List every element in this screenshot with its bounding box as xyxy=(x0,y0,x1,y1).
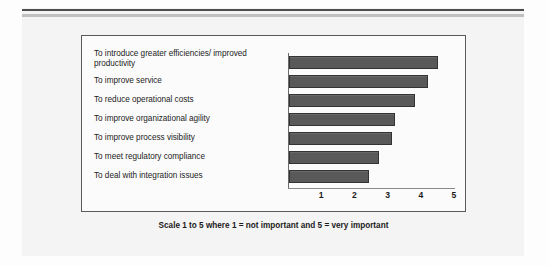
bar xyxy=(289,94,415,107)
bar xyxy=(289,170,369,183)
bar xyxy=(289,151,379,164)
bar-track xyxy=(289,132,455,145)
bar-row: To meet regulatory compliance xyxy=(82,148,467,167)
bar-row: To improve process visibility xyxy=(82,129,467,148)
axis-tick-label: 1 xyxy=(312,190,330,200)
bar xyxy=(289,113,395,126)
bar-rows: To introduce greater efficiencies/ impro… xyxy=(82,53,467,188)
bar-row: To deal with integration issues xyxy=(82,167,467,186)
axis-tick-label: 3 xyxy=(379,190,397,200)
bar-track xyxy=(289,56,455,69)
figure-container: To introduce greater efficiencies/ impro… xyxy=(0,0,548,266)
bar-track xyxy=(289,75,455,88)
bar-row: To improve organizational agility xyxy=(82,110,467,129)
bar xyxy=(289,56,438,69)
bar-category-label: To introduce greater efficiencies/ impro… xyxy=(94,49,286,69)
axis-tick-label: 2 xyxy=(345,190,363,200)
bar-row: To reduce operational costs xyxy=(82,91,467,110)
chart-caption: Scale 1 to 5 where 1 = not important and… xyxy=(81,221,466,230)
axis-tick-label: 4 xyxy=(412,190,430,200)
bar-chart-plot: To introduce greater efficiencies/ impro… xyxy=(82,36,467,213)
bar-track xyxy=(289,113,455,126)
bar-category-label: To improve service xyxy=(94,76,286,86)
bar-track xyxy=(289,94,455,107)
value-axis-line xyxy=(288,188,455,189)
bar-category-label: To improve organizational agility xyxy=(94,114,286,124)
bar-track xyxy=(289,170,455,183)
bar-category-label: To deal with integration issues xyxy=(94,171,286,181)
bar-category-label: To improve process visibility xyxy=(94,133,286,143)
bar xyxy=(289,132,392,145)
bar-row: To introduce greater efficiencies/ impro… xyxy=(82,53,467,72)
bar-category-label: To reduce operational costs xyxy=(94,95,286,105)
bar xyxy=(289,75,428,88)
bar-category-label: To meet regulatory compliance xyxy=(94,152,286,162)
value-axis-ticks: 12345 xyxy=(288,190,455,204)
top-rule-light xyxy=(22,14,524,17)
chart-frame: To introduce greater efficiencies/ impro… xyxy=(81,35,466,212)
bar-track xyxy=(289,151,455,164)
category-axis-line xyxy=(288,53,289,189)
bar-row: To improve service xyxy=(82,72,467,91)
axis-tick-label: 5 xyxy=(445,190,463,200)
top-rule-dark xyxy=(22,9,524,11)
